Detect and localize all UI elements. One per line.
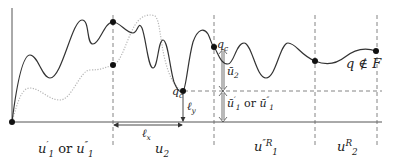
region-label-4: uR2 bbox=[337, 140, 358, 153]
end-point bbox=[373, 48, 379, 54]
qc-prime-label: qc bbox=[217, 39, 228, 50]
peak-point bbox=[110, 19, 116, 25]
ubar1-label: ū′1 or ū″1 bbox=[227, 98, 274, 109]
region-label-3: u″R1 bbox=[254, 140, 278, 153]
ly-label: ℓy bbox=[187, 101, 196, 112]
region-label-2: u2 bbox=[155, 142, 169, 155]
dotted-point bbox=[110, 62, 116, 68]
region-label-1: u′1 or u″1 bbox=[38, 142, 94, 155]
origin-point bbox=[9, 119, 15, 125]
qc-label: qc bbox=[172, 86, 183, 97]
lx-label: ℓx bbox=[142, 128, 151, 139]
dotted-curve bbox=[12, 15, 183, 122]
end-label: q ∉ F bbox=[346, 57, 381, 70]
junction-point bbox=[312, 58, 318, 64]
ubar2-label: ū2 bbox=[227, 66, 239, 77]
